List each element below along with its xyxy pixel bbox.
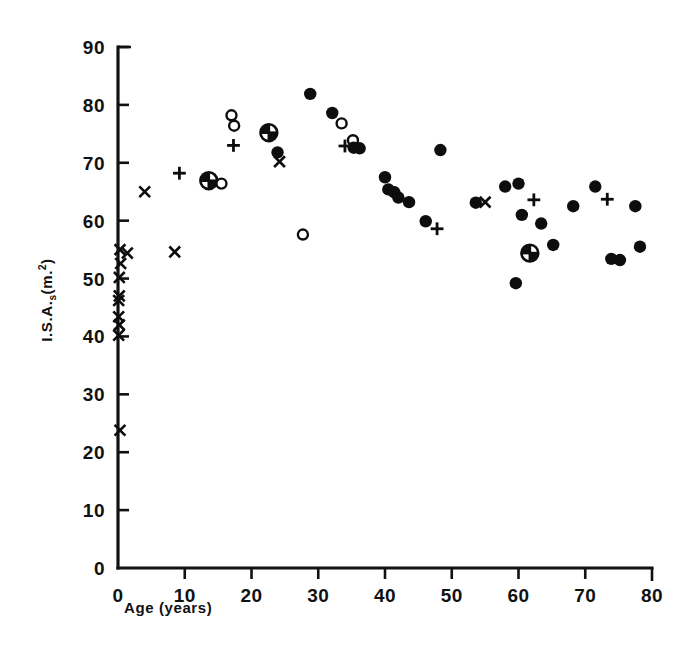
data-point-filled-circle-19 [567, 200, 579, 212]
y-tick-label-10: 10 [83, 500, 105, 521]
data-point-filled-circle-11 [434, 144, 446, 156]
data-point-filled-circle-20 [589, 180, 601, 192]
y-axis-tick-labels: 0102030405060708090 [83, 37, 105, 579]
data-point-cross-10 [139, 186, 150, 197]
data-point-filled-circle-15 [516, 209, 528, 221]
y-tick-label-60: 60 [83, 211, 105, 232]
y-axis-title-tail: (m. [38, 270, 55, 294]
data-point-circled-plus-2 [521, 245, 538, 262]
axes-group [118, 47, 652, 581]
data-point-plus-3 [431, 222, 444, 235]
data-point-filled-circle-17 [535, 217, 547, 229]
data-points-layer [113, 88, 646, 436]
y-tick-label-90: 90 [83, 37, 105, 58]
data-point-filled-circle-24 [634, 241, 646, 253]
x-tick-label-30: 30 [307, 585, 329, 606]
scatter-plot: 0102030405060708090 01020304050607080 I.… [0, 0, 684, 649]
x-tick-label-70: 70 [574, 585, 596, 606]
data-point-filled-circle-12 [470, 197, 482, 209]
y-axis-title-close: ) [38, 258, 55, 264]
data-point-filled-circle-13 [499, 180, 511, 192]
y-tick-label-20: 20 [83, 442, 105, 463]
svg-text:I.S.A.s(m.2): I.S.A.s(m.2) [37, 258, 58, 341]
data-point-cross-9 [115, 425, 126, 436]
data-point-open-circle-4 [337, 118, 347, 128]
data-point-circled-plus-0 [200, 172, 217, 189]
data-point-plus-1 [227, 139, 240, 152]
data-point-open-circle-1 [229, 121, 239, 131]
y-tick-label-80: 80 [83, 95, 105, 116]
x-tick-label-60: 60 [507, 585, 529, 606]
y-tick-label-30: 30 [83, 384, 105, 405]
data-point-filled-circle-14 [512, 177, 524, 189]
y-tick-label-50: 50 [83, 269, 105, 290]
data-point-plus-0 [173, 167, 186, 180]
y-tick-label-70: 70 [83, 153, 105, 174]
x-tick-label-80: 80 [641, 585, 663, 606]
data-point-filled-circle-0 [304, 88, 316, 100]
data-point-filled-circle-10 [420, 215, 432, 227]
data-point-open-circle-2 [216, 179, 226, 189]
data-point-filled-circle-2 [326, 107, 338, 119]
data-point-plus-4 [527, 193, 540, 206]
data-point-plus-5 [601, 193, 614, 206]
data-point-cross-11 [169, 247, 180, 258]
y-axis-title: I.S.A.s(m.2) [37, 258, 58, 341]
data-point-filled-circle-16 [510, 277, 522, 289]
data-point-circled-plus-1 [260, 124, 277, 141]
data-point-open-circle-3 [298, 230, 308, 240]
data-point-open-circle-0 [226, 110, 236, 120]
y-tick-label-0: 0 [94, 558, 105, 579]
x-tick-label-40: 40 [374, 585, 396, 606]
data-point-filled-circle-5 [379, 171, 391, 183]
x-tick-label-0: 0 [112, 585, 123, 606]
y-axis-title-main: I.S.A. [38, 301, 55, 342]
figure-container: 0102030405060708090 01020304050607080 I.… [0, 0, 684, 649]
data-point-filled-circle-8 [392, 191, 404, 203]
data-point-filled-circle-9 [403, 196, 415, 208]
x-tick-label-50: 50 [441, 585, 463, 606]
x-axis-title: Age (years) [124, 599, 212, 616]
data-point-filled-circle-4 [353, 142, 365, 154]
data-point-filled-circle-22 [614, 254, 626, 266]
data-point-filled-circle-23 [629, 200, 641, 212]
x-axis-ticks [185, 568, 586, 579]
y-tick-label-40: 40 [83, 326, 105, 347]
data-point-filled-circle-18 [547, 239, 559, 251]
x-tick-label-20: 20 [240, 585, 262, 606]
data-point-filled-circle-1 [271, 146, 283, 158]
